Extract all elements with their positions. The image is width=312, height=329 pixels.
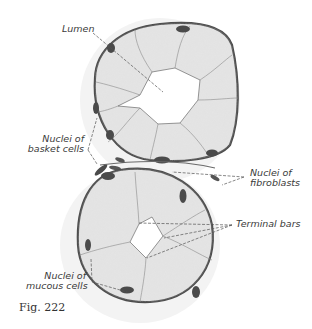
upper-acinus bbox=[93, 23, 238, 164]
label-mucous-nuclei: Nuclei of mucous cells bbox=[26, 271, 86, 291]
label-basket-nuclei-line2: basket cells bbox=[26, 144, 84, 154]
label-mucous-nuclei-line2: mucous cells bbox=[26, 281, 86, 291]
lower-acinus bbox=[78, 169, 213, 302]
label-terminal-bars: Terminal bars bbox=[236, 219, 300, 229]
figure-caption: Fig. 222 bbox=[19, 301, 65, 314]
label-basket-nuclei: Nuclei of basket cells bbox=[26, 134, 84, 154]
label-lumen: Lumen bbox=[62, 24, 94, 34]
label-fibroblast-nuclei: Nuclei of fibroblasts bbox=[250, 168, 300, 188]
histology-figure: Lumen Nuclei of basket cells Nuclei of f… bbox=[0, 0, 312, 329]
label-fibroblast-nuclei-line2: fibroblasts bbox=[250, 178, 300, 188]
